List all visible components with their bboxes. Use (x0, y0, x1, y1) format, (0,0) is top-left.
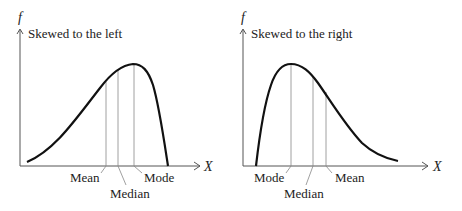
right-x-label: X (432, 159, 442, 174)
left-mean-label: Mean (70, 170, 100, 185)
right-mean-leader (326, 166, 332, 173)
right-mode-leader (286, 166, 291, 173)
left-mode-label: Mode (144, 170, 175, 185)
skewness-diagram: f X Skewed to the left Mean Median Mode … (0, 0, 462, 211)
right-median-leader (306, 166, 313, 185)
left-y-label: f (18, 10, 24, 25)
right-y-label: f (241, 10, 247, 25)
left-title: Skewed to the left (28, 26, 123, 41)
left-median-leader (118, 166, 126, 185)
left-median-label: Median (110, 186, 150, 201)
left-x-label: X (203, 159, 213, 174)
right-mode-label: Mode (254, 170, 285, 185)
right-skew-curve (256, 64, 398, 166)
right-title: Skewed to the right (251, 26, 353, 41)
right-mean-label: Mean (335, 170, 365, 185)
right-skew-panel: f X Skewed to the right Mode Median Mean (240, 10, 442, 201)
left-mean-leader (101, 166, 106, 173)
left-mode-leader (134, 166, 142, 173)
left-skew-panel: f X Skewed to the left Mean Median Mode (17, 10, 213, 201)
left-skew-curve (27, 64, 168, 166)
right-median-label: Median (284, 186, 324, 201)
